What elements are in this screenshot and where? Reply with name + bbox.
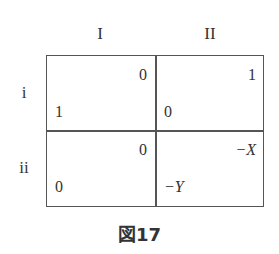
column-header-I: I [70, 24, 130, 44]
payoff-top-right: 1 [248, 66, 256, 84]
payoff-bottom-left: 0 [164, 103, 172, 121]
payoff-top-right: 0 [139, 141, 147, 159]
figure-caption: 図17 [0, 220, 279, 246]
payoff-top-right: 0 [139, 66, 147, 84]
cell-ii-II: −X −Y [156, 131, 264, 206]
payoff-top-right: −X [235, 141, 256, 159]
payoff-bottom-left: −Y [164, 178, 184, 196]
row-header-ii: ii [14, 158, 34, 178]
payoff-bottom-left: 0 [55, 178, 63, 196]
row-header-i: i [14, 83, 34, 103]
cell-ii-I: 0 0 [47, 131, 155, 206]
cell-i-I: 0 1 [47, 56, 155, 131]
cell-i-II: 1 0 [156, 56, 264, 131]
column-header-II: II [180, 24, 240, 44]
payoff-matrix: 0 1 1 0 0 0 −X −Y [46, 55, 264, 207]
payoff-bottom-left: 1 [55, 103, 63, 121]
